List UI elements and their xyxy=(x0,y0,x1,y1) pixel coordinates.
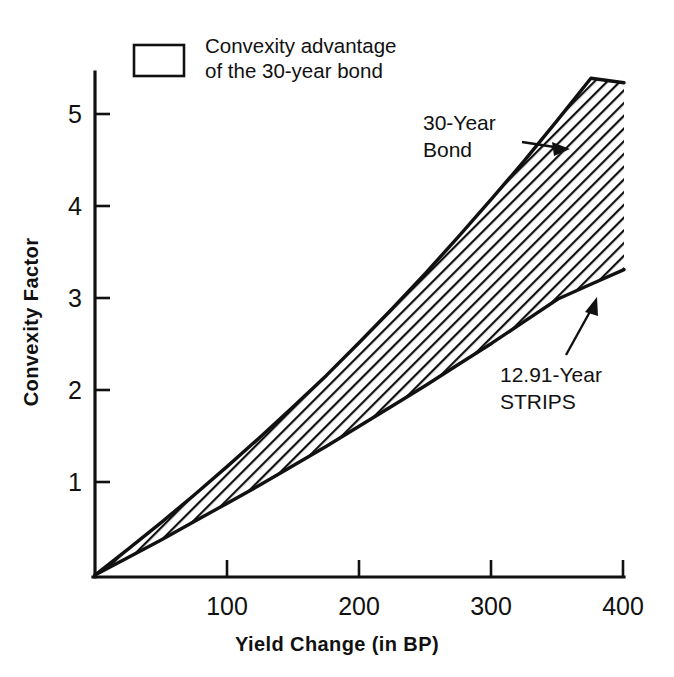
legend: Convexity advantage of the 30-year bond xyxy=(134,34,396,82)
y-tick-label-3: 3 xyxy=(68,284,82,312)
convexity-factor-chart: 5 4 3 2 1 Convexity Factor 100 200 300 4… xyxy=(0,0,674,677)
legend-label-line2: of the 30-year bond xyxy=(205,59,383,82)
y-axis: 5 4 3 2 1 Convexity Factor xyxy=(20,72,110,577)
x-axis-title: Yield Change (in BP) xyxy=(235,633,439,655)
y-tick-label-2: 2 xyxy=(68,376,82,404)
x-tick-label-100: 100 xyxy=(206,592,248,620)
y-axis-title: Convexity Factor xyxy=(20,238,42,407)
x-tick-label-200: 200 xyxy=(338,592,380,620)
legend-swatch xyxy=(134,45,184,76)
band-hatch-fill xyxy=(95,78,624,575)
annotation-1291-year-strips-line2: STRIPS xyxy=(500,390,576,413)
x-tick-label-300: 300 xyxy=(470,592,512,620)
y-tick-label-1: 1 xyxy=(68,468,82,496)
annotation-1291-year-strips-line1: 12.91-Year xyxy=(500,363,602,386)
chart-container: 5 4 3 2 1 Convexity Factor 100 200 300 4… xyxy=(0,0,674,677)
x-tick-label-400: 400 xyxy=(602,592,644,620)
annotation-1291-year-strips-arrowhead xyxy=(585,297,598,316)
legend-label-line1: Convexity advantage xyxy=(205,34,396,57)
y-tick-label-4: 4 xyxy=(68,192,82,220)
y-tick-label-5: 5 xyxy=(68,100,82,128)
x-axis: 100 200 300 400 Yield Change (in BP) xyxy=(93,560,644,655)
convexity-advantage-band xyxy=(95,78,624,575)
annotation-30-year-bond-line2: Bond xyxy=(423,138,472,161)
annotation-1291-year-strips-leader xyxy=(566,308,592,355)
annotation-30-year-bond-line1: 30-Year xyxy=(423,111,496,134)
